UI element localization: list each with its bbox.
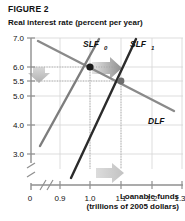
y-tick-label-5-0: 5.0	[13, 92, 25, 101]
y-tick-label-3-0: 3.0	[13, 150, 25, 159]
x-axis-title: Loanable funds (trillions of 2005 dollar…	[87, 192, 179, 212]
x-axis-title-line2: (trillions of 2005 dollars)	[87, 202, 179, 212]
curve-label-slf0: SLF	[83, 39, 100, 49]
chart-canvas: 7.0 6.0 5.5 5.0 4.0 3.0 0 0.9 1.0 1.1 1.…	[0, 0, 185, 221]
figure-root: FIGURE 2 Real interest rate (percent per…	[0, 0, 185, 221]
y-tick-label-5-5: 5.5	[13, 77, 25, 86]
curve-label-slf1: SLF	[130, 39, 147, 49]
x-axis-title-line1: Loanable funds	[120, 192, 179, 201]
equilibrium-point-new	[118, 78, 125, 85]
equilibrium-point-initial	[86, 63, 93, 70]
x-tick-label-0-9: 0.9	[54, 194, 66, 203]
origin-label: 0	[28, 194, 33, 203]
y-tick-label-6-0: 6.0	[13, 63, 25, 72]
y-tick-label-4-0: 4.0	[13, 121, 25, 130]
curve-label-dlf: DLF	[148, 116, 165, 126]
y-tick-label-7-0: 7.0	[13, 34, 25, 43]
